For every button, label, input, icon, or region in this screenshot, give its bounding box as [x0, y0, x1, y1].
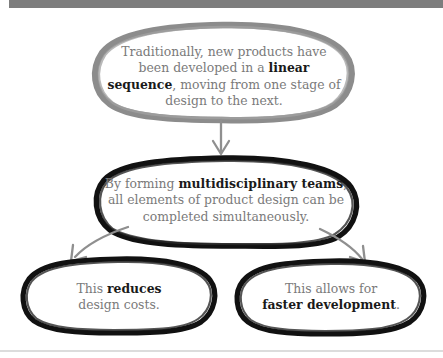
- node2-label: By forming multidisciplinary teams, all …: [104, 176, 348, 225]
- bottom-divider-rule: [0, 350, 443, 352]
- diagram-canvas: Traditionally, new products have been de…: [0, 0, 443, 358]
- node3-label: This reducesdesign costs.: [40, 281, 198, 314]
- node1-label: Traditionally, new products have been de…: [106, 44, 342, 110]
- node4-label: This allows forfaster development.: [248, 281, 414, 314]
- arrow-down-icon: [213, 120, 229, 154]
